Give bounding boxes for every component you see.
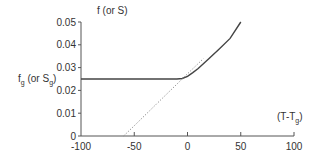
series (81, 22, 241, 136)
chart: 00.010.020.030.040.05-100-50050100 f (or… (0, 0, 319, 156)
x-tick-label: -50 (127, 141, 142, 152)
y-tick-label: 0.01 (57, 108, 77, 119)
y-tick-label: 0.05 (57, 17, 77, 28)
solid-curve (81, 22, 241, 79)
y-axis-title: f (or S) (97, 5, 128, 16)
dotted-extrapolation-line (124, 59, 204, 137)
ticks: 00.010.020.030.040.05-100-50050100 (57, 17, 303, 153)
x-tick-label: 50 (235, 141, 247, 152)
x-tick-label: -100 (71, 141, 91, 152)
y-tick-label: 0 (70, 131, 76, 142)
x-tick-label: 0 (185, 141, 191, 152)
x-tick-label: 100 (286, 141, 303, 152)
y-secondary-label: fg (or Sg) (18, 73, 56, 87)
y-tick-label: 0.03 (57, 62, 77, 73)
x-axis-title: (T-Tg) (277, 111, 303, 125)
y-tick-label: 0.04 (57, 39, 77, 50)
y-tick-label: 0.02 (57, 85, 77, 96)
